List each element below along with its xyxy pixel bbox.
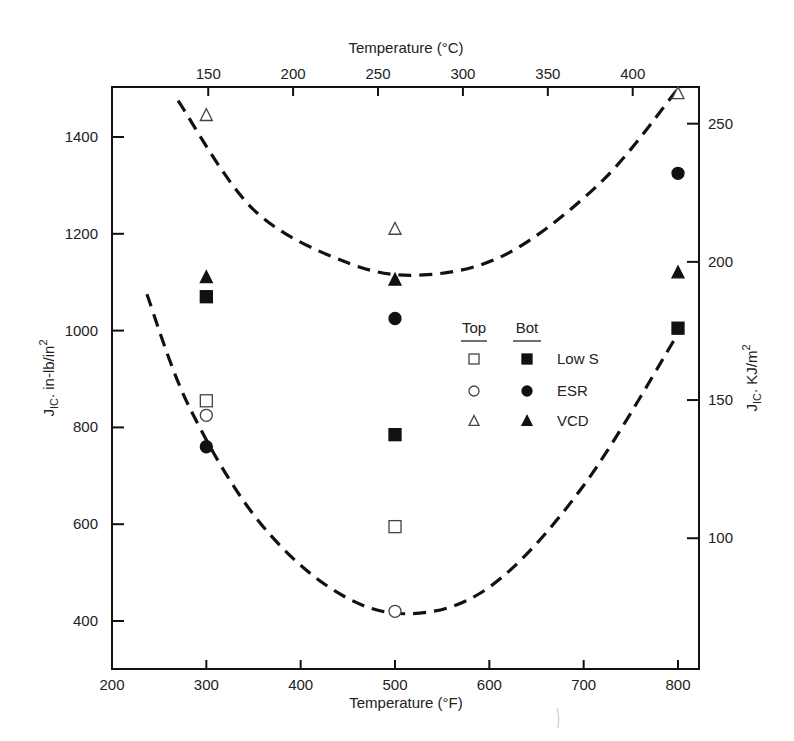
y-tick-label: 600 — [73, 515, 98, 532]
open-circle-icon — [469, 386, 479, 396]
filled-circle-icon — [389, 313, 401, 325]
y2-tick-label: 150 — [708, 391, 733, 408]
y-tick-label: 1000 — [65, 322, 98, 339]
legend-row-low-s: Low S — [469, 350, 599, 367]
y-axis-right-title: JIC. KJ/m2 — [740, 344, 763, 411]
y-tick-label: 1200 — [65, 225, 98, 242]
upper-band-curve — [178, 89, 678, 276]
svg-text:JIC. KJ/m2: JIC. KJ/m2 — [740, 344, 763, 411]
left-title-main: J — [40, 409, 57, 417]
right-title-sub: IC — [751, 393, 763, 404]
series-low-s-bot- — [200, 291, 684, 441]
legend-label: ESR — [557, 382, 588, 399]
legend-row-vcd: VCD — [469, 412, 589, 429]
filled-circle-icon — [672, 167, 684, 179]
y2-tick-label: 200 — [708, 253, 733, 270]
open-square-icon — [469, 354, 479, 364]
x-axis-bottom: 200300400500600700800 — [99, 660, 690, 693]
right-title-rest: . KJ/m — [743, 351, 760, 394]
open-square-icon — [200, 395, 212, 407]
y-tick-label: 400 — [73, 612, 98, 629]
y-axis-right: 100150200250 — [687, 115, 733, 547]
series-esr-top- — [200, 409, 401, 617]
y2-tick-label: 100 — [708, 529, 733, 546]
left-title-sub: IC — [48, 398, 60, 409]
x-tick-label: 400 — [288, 676, 313, 693]
legend-label: VCD — [557, 412, 589, 429]
right-title-main: J — [743, 404, 760, 412]
x2-tick-label: 250 — [366, 65, 391, 82]
scan-artifact — [557, 708, 559, 728]
open-triangle-icon — [469, 416, 479, 426]
filled-square-icon — [522, 354, 532, 364]
filled-square-icon — [389, 429, 401, 441]
svg-text:JIC. in-lb/in2: JIC. in-lb/in2 — [37, 339, 60, 416]
open-square-icon — [389, 521, 401, 533]
right-title-sup: 2 — [740, 344, 752, 350]
legend-header-bot: Bot — [516, 319, 539, 336]
open-circle-icon — [389, 605, 401, 617]
filled-circle-icon — [522, 386, 532, 396]
y2-tick-label: 250 — [708, 115, 733, 132]
x-tick-label: 600 — [477, 676, 502, 693]
x-axis-top-title: Temperature (°C) — [348, 39, 463, 56]
x2-tick-label: 200 — [281, 65, 306, 82]
x-tick-label: 300 — [194, 676, 219, 693]
open-triangle-icon — [200, 109, 212, 121]
legend: Top Bot Low SESRVCD — [461, 319, 599, 429]
chart: 200300400500600700800 150200250300350400… — [0, 0, 794, 741]
y-tick-label: 1400 — [65, 128, 98, 145]
filled-square-icon — [200, 291, 212, 303]
series-vcd-bot- — [200, 266, 684, 285]
left-title-rest: . in-lb/in — [40, 346, 57, 399]
x-axis-top: 150200250300350400 — [196, 65, 646, 96]
legend-label: Low S — [557, 350, 599, 367]
series-vcd-top- — [200, 87, 684, 234]
trend-curves — [147, 89, 683, 614]
left-title-sup: 2 — [37, 339, 49, 345]
lower-band-curve — [147, 294, 683, 613]
filled-circle-icon — [200, 441, 212, 453]
legend-header-top: Top — [462, 319, 486, 336]
x-tick-label: 700 — [571, 676, 596, 693]
x-axis-bottom-title: Temperature (°F) — [349, 694, 463, 711]
series-low-s-top- — [200, 395, 401, 533]
y-axis-left: 400600800100012001400 — [65, 128, 124, 629]
x2-tick-label: 300 — [450, 65, 475, 82]
series-esr-bot- — [200, 167, 684, 452]
x-tick-label: 200 — [99, 676, 124, 693]
x-tick-label: 500 — [382, 676, 407, 693]
x2-tick-label: 400 — [620, 65, 645, 82]
filled-triangle-icon — [522, 416, 532, 426]
filled-triangle-icon — [672, 266, 684, 278]
filled-triangle-icon — [200, 271, 212, 283]
legend-row-esr: ESR — [469, 382, 588, 399]
filled-square-icon — [672, 322, 684, 334]
x-tick-label: 800 — [665, 676, 690, 693]
open-triangle-icon — [389, 222, 401, 234]
x2-tick-label: 150 — [196, 65, 221, 82]
y-tick-label: 800 — [73, 418, 98, 435]
x2-tick-label: 350 — [535, 65, 560, 82]
y-axis-left-title: JIC. in-lb/in2 — [37, 339, 60, 416]
open-circle-icon — [200, 409, 212, 421]
